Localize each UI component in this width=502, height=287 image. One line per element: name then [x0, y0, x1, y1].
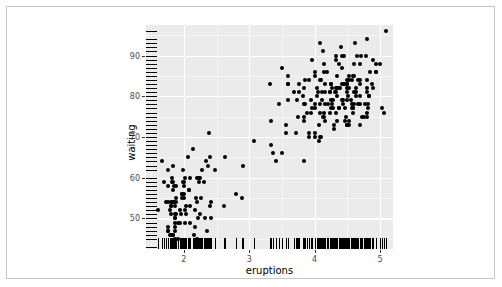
- data-point: [188, 204, 192, 208]
- data-point: [271, 151, 275, 155]
- data-point: [307, 135, 311, 139]
- data-point: [280, 151, 284, 155]
- data-point: [166, 184, 170, 188]
- data-point: [317, 123, 321, 127]
- data-point: [193, 225, 197, 229]
- data-point: [365, 37, 369, 41]
- rug-tick-y: [146, 223, 157, 224]
- y-tick-label: 90: [130, 51, 140, 60]
- data-point: [371, 58, 375, 62]
- data-point: [352, 62, 356, 66]
- rug-tick-x: [380, 238, 381, 249]
- data-point: [331, 106, 335, 110]
- data-point: [365, 78, 369, 82]
- y-tick-mark: [142, 178, 145, 179]
- rug-tick-x: [180, 238, 181, 249]
- rug-tick-x: [349, 238, 350, 249]
- rug-tick-x: [351, 238, 352, 249]
- x-tick-label: 5: [377, 255, 382, 264]
- rug-tick-x: [364, 238, 365, 249]
- rug-tick-y: [146, 157, 157, 158]
- plot-panel: [146, 25, 393, 249]
- rug-tick-x: [279, 238, 280, 249]
- data-point: [196, 216, 200, 220]
- data-point: [191, 147, 195, 151]
- rug-tick-x: [170, 238, 171, 249]
- rug-tick-y: [146, 64, 157, 65]
- data-point: [188, 221, 192, 225]
- rug-tick-x: [353, 238, 354, 249]
- data-point: [186, 155, 190, 159]
- data-point: [340, 66, 344, 70]
- data-point: [268, 82, 272, 86]
- data-point: [160, 159, 164, 163]
- data-point: [358, 123, 362, 127]
- data-point: [280, 66, 284, 70]
- data-point: [274, 159, 278, 163]
- rug-tick-x: [376, 238, 377, 249]
- rug-tick-x: [304, 238, 305, 249]
- data-point: [302, 119, 306, 123]
- rug-tick-y: [146, 190, 157, 191]
- rug-tick-x: [367, 238, 368, 249]
- rug-tick-x: [286, 238, 287, 249]
- rug-tick-x: [307, 238, 308, 249]
- data-point: [184, 212, 188, 216]
- data-point: [296, 115, 300, 119]
- data-point: [301, 94, 305, 98]
- rug-tick-x: [365, 238, 366, 249]
- data-point: [223, 155, 227, 159]
- rug-tick-x: [334, 238, 335, 249]
- rug-tick-y: [146, 60, 157, 61]
- data-point: [358, 82, 362, 86]
- data-point: [241, 164, 245, 168]
- data-point: [269, 119, 273, 123]
- data-point: [351, 111, 355, 115]
- rug-tick-y: [146, 43, 157, 44]
- rug-tick-x: [386, 238, 387, 249]
- rug-tick-x: [271, 238, 272, 249]
- rug-tick-y: [146, 133, 157, 134]
- x-tick-mark: [249, 250, 250, 253]
- data-point: [295, 98, 299, 102]
- data-point: [200, 168, 204, 172]
- rug-tick-y: [146, 56, 157, 57]
- data-point: [184, 204, 188, 208]
- rug-tick-y: [146, 218, 157, 219]
- rug-tick-y: [146, 72, 157, 73]
- rug-tick-x: [345, 238, 346, 249]
- rug-tick-x: [327, 238, 328, 249]
- data-point: [313, 135, 317, 139]
- data-point: [323, 119, 327, 123]
- rug-tick-x: [294, 238, 295, 249]
- rug-tick-x: [370, 238, 371, 249]
- data-point: [166, 200, 170, 204]
- y-tick-mark: [142, 56, 145, 57]
- rug-tick-x: [373, 238, 374, 249]
- rug-tick-x: [194, 238, 195, 249]
- rug-tick-x: [236, 238, 237, 249]
- rug-tick-y: [146, 247, 157, 248]
- data-point: [269, 143, 273, 147]
- data-point: [358, 78, 362, 82]
- rug-tick-x: [312, 238, 313, 249]
- rug-tick-x: [297, 238, 298, 249]
- data-point: [367, 94, 371, 98]
- data-point: [205, 229, 209, 233]
- rug-tick-x: [356, 238, 357, 249]
- rug-tick-y: [146, 76, 157, 77]
- rug-tick-y: [146, 194, 157, 195]
- rug-tick-x: [207, 238, 208, 249]
- rug-tick-x: [172, 238, 173, 249]
- gridline-major-horizontal: [146, 137, 393, 138]
- data-point: [173, 221, 177, 225]
- rug-tick-y: [146, 153, 157, 154]
- data-point: [240, 196, 244, 200]
- data-point: [371, 86, 375, 90]
- data-point: [337, 62, 341, 66]
- y-tick-label: 50: [130, 214, 140, 223]
- rug-tick-x: [183, 238, 184, 249]
- rug-tick-y: [146, 117, 157, 118]
- x-tick-label: 4: [312, 255, 317, 264]
- data-point: [313, 74, 317, 78]
